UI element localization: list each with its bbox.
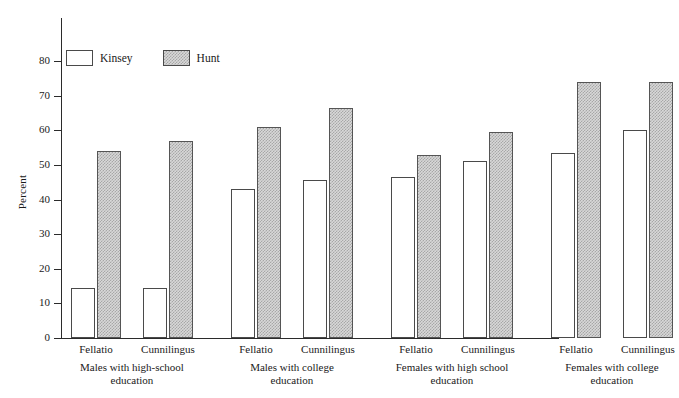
y-tick-label-wrap: 50: [0, 159, 50, 170]
bar-kinsey: [623, 130, 647, 338]
y-tick-mark: [54, 303, 62, 304]
y-tick-label-wrap: 60: [0, 124, 50, 135]
bar-hunt: [97, 151, 121, 338]
legend-label-kinsey: Kinsey: [100, 52, 133, 64]
bar-kinsey: [551, 153, 575, 338]
x-axis-line: [61, 338, 559, 339]
y-tick-mark: [54, 269, 62, 270]
bars-layer: [62, 18, 559, 338]
legend-swatch-hunt: [163, 50, 190, 66]
legend-swatch-kinsey: [66, 50, 93, 66]
y-tick-label: 10: [4, 297, 50, 308]
bar-hunt: [329, 108, 353, 338]
legend-item-kinsey: Kinsey: [66, 50, 133, 66]
y-tick-label: 20: [4, 263, 50, 274]
y-tick-label: 50: [4, 159, 50, 170]
y-tick-label-wrap: 30: [0, 228, 50, 239]
chart-legend: Kinsey Hunt: [66, 50, 220, 66]
y-tick-label-wrap: 80: [0, 55, 50, 66]
bar-kinsey: [463, 161, 487, 338]
y-tick-label: 30: [4, 228, 50, 239]
y-tick-label-wrap: 40: [0, 194, 50, 205]
x-group-label-line1: Females with college: [532, 361, 679, 374]
x-group-label-line2: education: [52, 374, 212, 387]
bar-kinsey: [303, 180, 327, 338]
bar-kinsey: [231, 189, 255, 338]
x-group-label-line2: education: [372, 374, 532, 387]
x-group-label-line1: Males with college: [212, 361, 372, 374]
y-tick-mark: [54, 96, 62, 97]
bar-kinsey: [391, 177, 415, 338]
legend-item-hunt: Hunt: [163, 50, 220, 66]
x-group-label-line2: education: [532, 374, 679, 387]
x-category-label: Cunnilingus: [283, 343, 373, 355]
bar-hunt: [417, 155, 441, 339]
y-tick-label: 40: [4, 194, 50, 205]
y-tick-label-wrap: 20: [0, 263, 50, 274]
y-tick-label: 60: [4, 124, 50, 135]
x-category-label: Cunnilingus: [603, 343, 679, 355]
y-tick-mark: [54, 234, 62, 235]
x-group-label-line2: education: [212, 374, 372, 387]
bar-hunt: [169, 141, 193, 338]
y-tick-mark: [54, 61, 62, 62]
y-tick-mark: [54, 200, 62, 201]
y-tick-label: 70: [4, 90, 50, 101]
y-tick-mark: [54, 338, 62, 339]
y-tick-label-wrap: 0: [0, 332, 50, 343]
y-tick-mark: [54, 165, 62, 166]
bar-hunt: [649, 82, 673, 338]
x-group-label: Females with collegeeducation: [532, 361, 679, 387]
bar-hunt: [489, 132, 513, 338]
x-group-label: Males with high-schooleducation: [52, 361, 212, 387]
y-tick-label-wrap: 70: [0, 90, 50, 101]
x-group-label-line1: Females with high school: [372, 361, 532, 374]
bar-kinsey: [143, 288, 167, 338]
y-tick-label: 80: [4, 55, 50, 66]
bar-kinsey: [71, 288, 95, 338]
y-tick-label-wrap: 10: [0, 297, 50, 308]
bar-hunt: [257, 127, 281, 338]
x-group-label-line1: Males with high-school: [52, 361, 212, 374]
x-category-label: Cunnilingus: [443, 343, 533, 355]
x-group-label: Males with collegeeducation: [212, 361, 372, 387]
bar-hunt: [577, 82, 601, 338]
y-tick-label: 0: [4, 332, 50, 343]
y-tick-mark: [54, 130, 62, 131]
x-group-label: Females with high schooleducation: [372, 361, 532, 387]
x-category-label: Cunnilingus: [123, 343, 213, 355]
legend-label-hunt: Hunt: [197, 52, 220, 64]
